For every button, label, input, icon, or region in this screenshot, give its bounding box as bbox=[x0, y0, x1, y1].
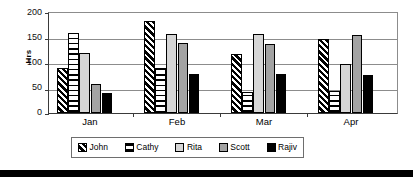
x-axis-tick-labels: Jan Feb Mar Apr bbox=[48, 116, 398, 130]
x-tick-label-apr: Apr bbox=[319, 116, 383, 128]
bar-rita-mar bbox=[253, 34, 264, 113]
bar-cathy-feb bbox=[155, 68, 166, 113]
y-tick-label-200: 200 bbox=[16, 8, 42, 17]
bar-rajiv-feb bbox=[189, 74, 200, 113]
legend-swatch-john-icon bbox=[78, 143, 87, 152]
bar-group-jan bbox=[49, 13, 136, 113]
y-tick-label-100: 100 bbox=[16, 58, 42, 67]
bar-scott-feb bbox=[178, 43, 189, 113]
bar-john-jan bbox=[57, 68, 68, 113]
legend-label-rajiv: Rajiv bbox=[278, 143, 297, 152]
bar-group-apr bbox=[310, 13, 397, 113]
legend-label-cathy: Cathy bbox=[136, 143, 158, 152]
plot-area bbox=[48, 12, 398, 114]
bar-rita-apr bbox=[340, 64, 351, 113]
legend-label-rita: Rita bbox=[187, 143, 202, 152]
bar-rajiv-jan bbox=[102, 93, 113, 113]
legend-item-scott: Scott bbox=[219, 143, 250, 152]
bar-john-feb bbox=[144, 21, 155, 113]
legend-swatch-rita-icon bbox=[175, 143, 184, 152]
y-tick-label-0: 0 bbox=[16, 108, 42, 117]
bar-scott-mar bbox=[265, 44, 276, 113]
y-tickmark-0 bbox=[45, 114, 49, 115]
legend-label-john: John bbox=[90, 143, 108, 152]
bar-chart: Hrs 200 150 100 50 0 Jan Feb Mar Apr bbox=[0, 0, 413, 177]
bottom-band bbox=[0, 170, 413, 177]
bar-john-mar bbox=[231, 54, 242, 113]
y-tick-label-50: 50 bbox=[16, 83, 42, 92]
bar-group-feb bbox=[136, 13, 223, 113]
bar-rajiv-apr bbox=[363, 75, 374, 113]
bar-cathy-apr bbox=[329, 91, 340, 113]
x-tick-label-jan: Jan bbox=[58, 116, 122, 128]
legend-item-cathy: Cathy bbox=[125, 143, 159, 152]
legend-item-rita: Rita bbox=[175, 143, 202, 152]
legend-swatch-cathy-icon bbox=[125, 143, 134, 152]
legend-swatch-scott-icon bbox=[219, 143, 228, 152]
bar-john-apr bbox=[318, 39, 329, 113]
y-tick-label-150: 150 bbox=[16, 33, 42, 42]
bar-scott-apr bbox=[352, 35, 363, 113]
bar-cathy-mar bbox=[242, 92, 253, 113]
x-tick-label-feb: Feb bbox=[145, 116, 209, 128]
bar-scott-jan bbox=[91, 84, 102, 113]
bar-rita-jan bbox=[79, 53, 90, 113]
legend-item-john: John bbox=[78, 143, 108, 152]
bar-cathy-jan bbox=[68, 33, 79, 113]
bar-group-mar bbox=[223, 13, 310, 113]
legend-label-scott: Scott bbox=[230, 143, 249, 152]
bar-rita-feb bbox=[166, 34, 177, 113]
legend-item-rajiv: Rajiv bbox=[267, 143, 297, 152]
bar-rajiv-mar bbox=[276, 74, 287, 113]
chart-legend: John Cathy Rita Scott Rajiv bbox=[71, 137, 304, 158]
x-tick-label-mar: Mar bbox=[232, 116, 296, 128]
legend-swatch-rajiv-icon bbox=[267, 143, 276, 152]
y-axis-tick-labels: 200 150 100 50 0 bbox=[8, 0, 42, 118]
